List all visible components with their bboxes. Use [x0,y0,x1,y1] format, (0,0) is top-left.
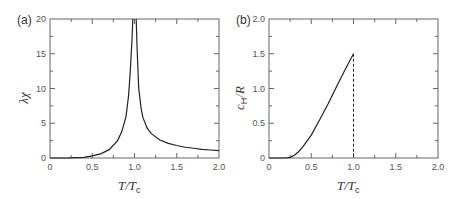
ticks-b [269,19,438,158]
x-tick-label: 0.5 [305,162,318,172]
y-tick-label: 1.5 [252,49,265,59]
plot-frame-b [269,19,438,158]
x-tick-label: 1.5 [389,162,402,172]
data-line [136,19,219,151]
x-tick-label: 1.0 [128,162,141,172]
series-a [50,19,219,158]
y-tick-label: 10 [36,84,46,94]
x-tick-label: 2.0 [432,162,445,172]
y-tick-label: 0 [41,153,46,163]
y-tick-label: 1.0 [252,84,265,94]
x-tick-label: 1.5 [170,162,183,172]
y-tick-labels-a: 05101520 [36,14,46,163]
x-axis-title-a: T/Tc [118,178,141,195]
x-tick-label: 0.5 [86,162,99,172]
plot-frame-a [50,19,219,158]
y-axis-title-a: λχ [16,92,31,105]
x-tick-label: 1.0 [347,162,360,172]
ticks-a [50,19,219,158]
panel-label-a: (a) [17,13,32,27]
data-line [50,19,133,158]
y-tick-labels-b: 00.51.01.52.0 [252,14,265,163]
x-axis-title-b: T/Tc [337,178,360,195]
y-tick-label: 0.5 [252,118,265,128]
panel-a: (a) 00.51.01.52.0 05101520 T/Tc λχ [16,13,225,195]
panel-b: (b) 00.51.01.52.0 00.51.01.52.0 T/Tc cH/… [232,13,444,195]
y-axis-title-b: cH/R [232,86,249,110]
y-tick-label: 5 [41,118,46,128]
figure: (a) 00.51.01.52.0 05101520 T/Tc λχ (b) 0… [0,0,459,199]
y-tick-label: 15 [36,49,46,59]
y-tick-label: 0 [260,153,265,163]
x-tick-label: 2.0 [213,162,226,172]
x-tick-label: 0 [47,162,52,172]
x-tick-labels-b: 00.51.01.52.0 [266,162,444,172]
y-tick-label: 20 [36,14,46,24]
series-b [269,54,354,158]
x-tick-labels-a: 00.51.01.52.0 [47,162,225,172]
y-tick-label: 2.0 [252,14,265,24]
panel-label-b: (b) [236,13,251,27]
x-tick-label: 0 [266,162,271,172]
data-line [269,54,354,158]
